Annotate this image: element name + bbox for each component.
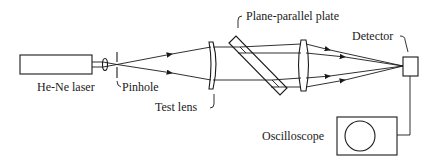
oscilloscope [337,117,397,155]
focusing-lens [103,59,108,71]
detector-label: Detector [352,29,393,43]
test-lens-leader [210,94,214,108]
laser-label: He-Ne laser [37,80,95,94]
oscilloscope-label: Oscilloscope [262,129,324,143]
converging-beams [306,44,403,87]
pinhole-leader [117,81,121,87]
pinhole-label: Pinhole [122,80,159,94]
plate-label: Plane-parallel plate [246,9,339,23]
diverging-beams [103,47,211,80]
signal-cable [397,76,410,135]
sheared-beams [240,44,301,87]
focusing-lens-2 [299,40,309,91]
plate-leader [238,16,242,28]
he-ne-laser [20,55,103,74]
test-lens-label: Test lens [155,100,197,114]
detector [403,57,418,76]
test-lens [209,42,216,89]
detector-leader [400,36,408,52]
